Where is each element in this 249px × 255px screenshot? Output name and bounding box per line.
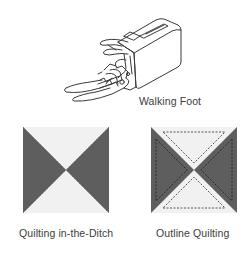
walking-foot-label: Walking Foot [139,95,201,107]
outline-quilting-diagram [151,127,237,213]
quilting-in-the-ditch-label: Quilting in-the-Ditch [19,227,113,239]
quilting-in-the-ditch-diagram [23,127,109,213]
walking-foot-illustration [60,8,186,102]
outline-quilting-label: Outline Quilting [156,227,229,239]
